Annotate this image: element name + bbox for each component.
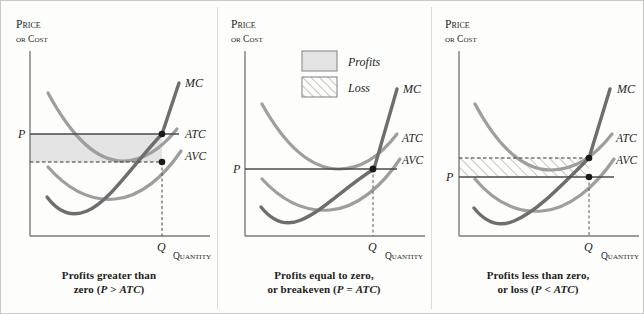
caption-operator: > xyxy=(107,283,119,295)
panel-breakeven-caption: Profits equal to zero, or breakeven (P =… xyxy=(217,269,431,296)
avc-label: AVC xyxy=(184,150,206,162)
legend-label-profits: Profits xyxy=(347,55,381,69)
caption-line-1: Profits equal to zero, xyxy=(274,269,374,281)
panel-breakeven: Price or Cost Profits Loss M xyxy=(217,1,431,314)
caption-var-p: P xyxy=(535,283,542,295)
y-axis-label-line2: or Cost xyxy=(16,34,48,44)
x-axis-label: Quantity xyxy=(385,251,423,261)
mc-curve xyxy=(261,89,397,223)
y-axis-label-line2: or Cost xyxy=(445,34,477,44)
caption-post: ) xyxy=(575,283,579,295)
x-axis-label: Quantity xyxy=(173,251,211,261)
y-axis-label-line1: Price xyxy=(445,18,470,30)
price-tick-label: P xyxy=(17,127,26,141)
equilibrium-point-marker xyxy=(586,174,593,181)
panel-loss-caption: Profits less than zero, or loss (P < ATC… xyxy=(431,269,644,296)
y-axis-label-line1: Price xyxy=(16,18,41,30)
legend-swatch-loss xyxy=(302,77,337,97)
panel-loss: Price or Cost MC ATC AVC P xyxy=(431,1,644,314)
mc-label: MC xyxy=(402,82,422,96)
x-axis-label: Quantity xyxy=(601,251,639,261)
panel-breakeven-chart: Price or Cost Profits Loss M xyxy=(217,1,431,314)
atc-label: ATC xyxy=(401,132,423,144)
atc-point-marker xyxy=(586,155,593,162)
y-axis-label-line2: or Cost xyxy=(231,34,263,44)
quantity-tick-label: Q xyxy=(584,240,593,254)
caption-pre: or breakeven ( xyxy=(267,283,336,295)
avc-label: AVC xyxy=(401,154,423,166)
panel-profit-chart: Price or Cost MC ATC AV xyxy=(1,1,217,314)
caption-var-atc: ATC xyxy=(554,283,575,295)
panel-loss-chart: Price or Cost MC ATC AVC P xyxy=(431,1,644,314)
caption-var-atc: ATC xyxy=(356,283,377,295)
avc-label: AVC xyxy=(615,154,637,166)
y-axis-label-line1: Price xyxy=(231,18,256,30)
legend: Profits Loss xyxy=(302,51,381,97)
caption-operator: < xyxy=(542,283,554,295)
legend-label-loss: Loss xyxy=(347,81,370,95)
caption-post: ) xyxy=(141,283,145,295)
caption-post: ) xyxy=(377,283,381,295)
price-tick-label: P xyxy=(445,170,454,184)
atc-label: ATC xyxy=(615,132,637,144)
legend-swatch-profits xyxy=(302,51,337,71)
price-tick-label: P xyxy=(232,162,241,176)
caption-line-2: or breakeven (P = ATC) xyxy=(217,283,431,297)
caption-pre: zero ( xyxy=(74,283,101,295)
caption-operator: = xyxy=(344,283,356,295)
caption-line-1: Profits less than zero, xyxy=(487,269,590,281)
quantity-tick-label: Q xyxy=(368,240,377,254)
quantity-tick-label: Q xyxy=(157,240,166,254)
caption-pre: or loss ( xyxy=(497,283,534,295)
panel-profit: Price or Cost MC ATC AV xyxy=(1,1,217,314)
mc-label: MC xyxy=(184,76,204,90)
equilibrium-point-marker xyxy=(159,131,166,138)
atc-point-marker xyxy=(159,159,166,166)
mc-label: MC xyxy=(616,82,636,96)
caption-line-2: zero (P > ATC) xyxy=(1,283,217,297)
panel-profit-caption: Profits greater than zero (P > ATC) xyxy=(1,269,217,296)
atc-label: ATC xyxy=(184,128,206,140)
figure-container: Price or Cost MC ATC AV xyxy=(0,0,644,314)
caption-line-2: or loss (P < ATC) xyxy=(431,283,644,297)
caption-line-1: Profits greater than xyxy=(62,269,156,281)
caption-var-p: P xyxy=(337,283,344,295)
caption-var-atc: ATC xyxy=(120,283,141,295)
breakeven-point-marker xyxy=(370,166,377,173)
